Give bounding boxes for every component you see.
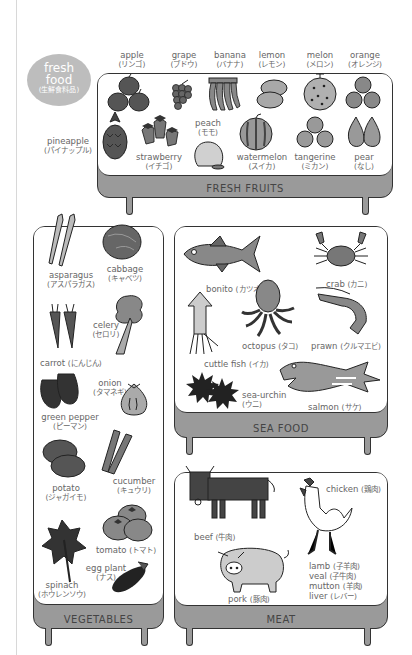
fruit-label-orange: orange(オレンジ) bbox=[340, 50, 390, 70]
melon-icon bbox=[302, 72, 338, 112]
octopus-icon bbox=[240, 278, 296, 340]
board-leg bbox=[364, 437, 371, 455]
apple-icon bbox=[103, 74, 155, 114]
veg-label-cucumber: cucumber(キュウリ) bbox=[110, 476, 158, 496]
celery-icon bbox=[110, 294, 148, 356]
fresh-food-badge: fresh food (生鮮食料品) bbox=[27, 54, 91, 106]
eggplant-icon bbox=[108, 560, 150, 596]
crab-icon bbox=[312, 230, 370, 276]
spinach-icon bbox=[40, 520, 88, 584]
tomato-icon bbox=[100, 502, 156, 542]
meat-label-beef: beef (牛肉) bbox=[194, 532, 235, 543]
pineapple-icon bbox=[100, 112, 130, 160]
veg-label-green-pepper: green pepper(ピーマン) bbox=[38, 412, 102, 432]
cuttlefish-icon bbox=[184, 290, 220, 356]
board-leg bbox=[126, 197, 133, 215]
grape-icon bbox=[168, 80, 194, 112]
veg-label-tomato: tomato (トマト) bbox=[96, 545, 156, 556]
chicken-icon bbox=[296, 478, 358, 558]
badge-line2: food bbox=[27, 74, 91, 86]
sea-urchin-icon bbox=[186, 370, 240, 412]
fruit-label-lemon: lemon(レモン) bbox=[252, 50, 292, 70]
peach-icon bbox=[190, 140, 226, 170]
cabbage-icon bbox=[100, 222, 144, 262]
fruit-label-pear: pear(なし) bbox=[346, 152, 382, 172]
fruit-label-grape: grape(ブドウ) bbox=[164, 50, 204, 70]
pear-icon bbox=[344, 115, 384, 149]
board-leg bbox=[186, 437, 193, 455]
page-edge bbox=[16, 0, 17, 655]
board-leg bbox=[141, 628, 148, 646]
bonito-icon bbox=[180, 232, 266, 278]
fruit-label-melon: melon(メロン) bbox=[300, 50, 340, 70]
prawn-icon bbox=[314, 286, 374, 338]
cow-icon bbox=[186, 462, 278, 522]
onion-icon bbox=[114, 380, 154, 420]
fruit-label-apple: apple(リンゴ) bbox=[112, 50, 152, 70]
meat-label-pork: pork (豚肉) bbox=[228, 594, 270, 605]
potato-icon bbox=[40, 438, 90, 480]
veg-label-potato: potato(ジャガイモ) bbox=[38, 483, 94, 503]
meat-board-title: MEAT bbox=[175, 614, 387, 625]
tangerine-icon bbox=[293, 116, 337, 150]
veg-label-asparagus: asparagus(アスパラガス) bbox=[36, 270, 106, 290]
fruit-label-banana: banana(バナナ) bbox=[208, 50, 252, 70]
badge-line3: (生鮮食料品) bbox=[27, 86, 91, 95]
banana-icon bbox=[203, 78, 243, 114]
seafood-board-title: SEA FOOD bbox=[175, 423, 387, 434]
fruit-label-strawberry: strawberry(イチゴ) bbox=[134, 152, 184, 172]
board-leg bbox=[364, 628, 371, 646]
fruits-board-title: FRESH FRUITS bbox=[98, 183, 392, 194]
pig-icon bbox=[214, 544, 292, 594]
veg-label-cabbage: cabbage(キャベツ) bbox=[100, 264, 150, 284]
board-leg bbox=[186, 628, 193, 646]
board-leg bbox=[45, 628, 52, 646]
strawberry-icon bbox=[140, 114, 180, 148]
meat-label-liver: liver (レバー) bbox=[309, 591, 357, 602]
fruit-label-peach: peach(モモ) bbox=[190, 118, 226, 138]
sea-label-prawn: prawn (クルマエビ) bbox=[311, 341, 381, 352]
sea-label-cuttlefish: cuttle fish (イカ) bbox=[204, 359, 269, 370]
orange-icon bbox=[345, 76, 381, 110]
board-leg bbox=[362, 197, 369, 215]
fruit-label-pineapple: pineapple(パイナップル) bbox=[36, 136, 100, 156]
sea-label-salmon: salmon (サケ) bbox=[308, 402, 361, 413]
fruit-label-watermelon: watermelon(スイカ) bbox=[232, 152, 292, 172]
fruit-label-tangerine: tangerine(ミカン) bbox=[290, 152, 340, 172]
watermelon-icon bbox=[237, 112, 275, 152]
sea-label-octopus: octopus (タコ) bbox=[242, 341, 298, 352]
green-pepper-icon bbox=[38, 366, 82, 412]
salmon-icon bbox=[276, 356, 382, 400]
carrot-icon bbox=[44, 302, 84, 352]
cucumber-icon bbox=[100, 428, 134, 476]
asparagus-icon bbox=[48, 212, 82, 268]
lemon-icon bbox=[256, 78, 290, 110]
vegetables-board-title: VEGETABLES bbox=[34, 614, 163, 625]
